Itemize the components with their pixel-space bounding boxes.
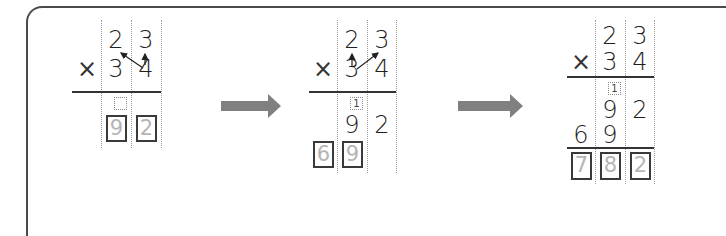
carry-box: 1 xyxy=(608,82,621,95)
multiplier-tens: 3 xyxy=(595,49,625,75)
multiplicand-tens: 2 xyxy=(595,23,625,49)
product-rule xyxy=(567,76,654,78)
multiplicand-ones: 3 xyxy=(625,23,655,49)
multiplier-ones: 4 xyxy=(625,49,655,75)
answer-box-tens[interactable]: 8 xyxy=(600,152,621,180)
partial-product-2-tens: 9 xyxy=(595,122,625,148)
partial-product-1-tens: 9 xyxy=(595,97,625,123)
multiply-sign: × xyxy=(566,49,596,75)
answer-box-ones[interactable]: 2 xyxy=(630,152,651,180)
answer-box-hundreds[interactable]: 7 xyxy=(571,152,592,180)
partial-product-1-ones: 2 xyxy=(625,97,655,123)
partial-product-2-hundreds: 6 xyxy=(566,122,596,148)
sum-rule xyxy=(567,147,654,149)
